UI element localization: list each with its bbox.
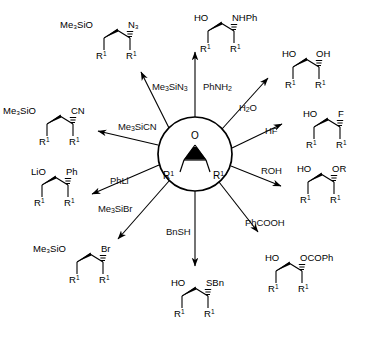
skeleton-diol	[293, 59, 319, 79]
epoxide-left-R-label: R1	[163, 170, 174, 181]
product-label-thioether-r1-left: R1	[174, 308, 185, 319]
product-label-ether-r1-right: R1	[330, 194, 341, 205]
product-label-nitrile-left: Me₃SiO	[3, 105, 36, 116]
product-label-nitrile-r1-left: R1	[39, 136, 50, 147]
product-label-bromide-r1-left: R1	[69, 274, 80, 285]
skeleton-benzoate	[276, 263, 302, 283]
product-label-amino-r1-left: R1	[200, 43, 211, 54]
skeleton-fluorohydrin	[314, 119, 340, 139]
epoxide-right-R-label: R1	[213, 170, 224, 181]
reaction-scheme-figure: O R1 R1 Me3SiN3 PhNH2 H2O HF ROH PhCOOH …	[0, 0, 378, 337]
product-label-ether-right: OR	[332, 163, 346, 174]
product-label-diol-right: OH	[316, 48, 330, 59]
product-label-bromide-r1-right: R1	[99, 274, 110, 285]
epoxide-oxygen-label: O	[191, 131, 199, 141]
product-label-ether-left: HO	[297, 163, 311, 174]
product-label-bromide-left: Me₃SiO	[33, 243, 66, 254]
product-label-nitrile-right: CN	[71, 105, 85, 116]
skeleton-nitrile	[47, 116, 73, 136]
product-label-thioether-right: SBn	[206, 277, 224, 288]
product-label-bromide-right: Br	[101, 243, 111, 254]
product-label-azide-right: N₃	[128, 19, 139, 30]
product-label-fluorohydrin-right: F	[338, 108, 344, 119]
reagent-label-tmscn: Me3SiCN	[118, 122, 157, 132]
reagent-label-phli: PhLi	[110, 176, 129, 186]
product-label-thioether-r1-right: R1	[204, 308, 215, 319]
product-label-phenyl-r1-left: R1	[34, 197, 45, 208]
product-label-azide-r1-right: R1	[126, 50, 137, 61]
product-label-phenyl-r1-right: R1	[64, 197, 75, 208]
reagent-label-water: H2O	[239, 103, 257, 113]
product-label-phenyl-right: Ph	[66, 166, 78, 177]
product-label-fluorohydrin-r1-left: R1	[306, 139, 317, 150]
product-label-amino-left: HO	[194, 12, 208, 23]
product-label-benzoate-right: OCOPh	[300, 252, 333, 263]
reagent-label-benzoic-acid: PhCOOH	[245, 218, 285, 228]
reagent-label-amino: PhNH2	[203, 82, 232, 92]
product-label-benzoate-left: HO	[265, 252, 279, 263]
reagent-label-tmsbr: Me3SiBr	[98, 204, 132, 214]
product-label-azide-r1-left: R1	[96, 50, 107, 61]
product-label-diol-r1-left: R1	[285, 79, 296, 90]
reagent-label-bnsh: BnSH	[166, 227, 190, 237]
reagent-label-azide: Me3SiN3	[152, 82, 188, 92]
skeleton-azide	[104, 30, 130, 50]
product-label-diol-left: HO	[282, 48, 296, 59]
product-label-diol-r1-right: R1	[315, 79, 326, 90]
product-label-fluorohydrin-left: HO	[303, 108, 317, 119]
product-label-nitrile-r1-right: R1	[69, 136, 80, 147]
product-label-benzoate-r1-left: R1	[268, 283, 279, 294]
reagent-label-hf: HF	[265, 126, 277, 136]
product-label-fluorohydrin-r1-right: R1	[336, 139, 347, 150]
product-label-amino-r1-right: R1	[230, 43, 241, 54]
epoxide-wedge	[184, 147, 206, 159]
arrow-nitrile	[98, 131, 158, 145]
skeleton-ether	[308, 174, 334, 194]
skeleton-bromide	[77, 254, 103, 274]
product-label-benzoate-r1-right: R1	[298, 283, 309, 294]
product-label-phenyl-left: LiO	[31, 166, 46, 177]
product-label-azide-left: Me₃SiO	[60, 19, 93, 30]
product-label-amino-right: NHPh	[232, 12, 257, 23]
skeleton-thioether	[182, 288, 208, 308]
skeleton-amino	[208, 23, 234, 43]
skeleton-phenyl	[42, 177, 68, 197]
product-label-ether-r1-left: R1	[300, 194, 311, 205]
reagent-label-roh: ROH	[261, 166, 282, 176]
product-label-thioether-left: HO	[171, 277, 185, 288]
